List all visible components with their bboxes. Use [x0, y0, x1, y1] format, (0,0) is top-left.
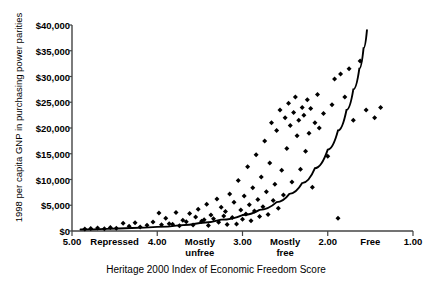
plot-area [0, 0, 432, 286]
data-point [231, 200, 236, 205]
data-point [221, 214, 226, 219]
data-point [214, 197, 219, 202]
data-point [267, 161, 272, 166]
data-point [206, 223, 211, 228]
data-point [364, 107, 369, 112]
data-point [242, 193, 247, 198]
data-point [247, 202, 252, 207]
data-point [133, 220, 138, 225]
data-point [291, 110, 296, 115]
data-point [332, 77, 337, 82]
data-point [204, 202, 209, 207]
data-point [330, 102, 335, 107]
data-point [269, 120, 274, 125]
data-point [301, 113, 306, 118]
data-point [338, 71, 343, 76]
data-point [306, 131, 311, 136]
data-point [310, 185, 315, 190]
data-point [335, 216, 340, 221]
data-point [121, 221, 126, 226]
data-point [254, 152, 259, 157]
data-point [150, 219, 155, 224]
data-point [317, 126, 322, 131]
data-point [286, 101, 291, 106]
data-point [305, 97, 310, 102]
data-point [227, 191, 232, 196]
data-point [300, 105, 305, 110]
data-point [240, 217, 245, 222]
data-point [272, 182, 277, 187]
data-point [238, 207, 243, 212]
data-point [257, 214, 262, 219]
data-point [255, 197, 260, 202]
data-point [156, 210, 161, 215]
data-point [278, 107, 283, 112]
data-point [259, 174, 264, 179]
data-point [174, 210, 179, 215]
scatter-points [82, 59, 383, 232]
data-point [303, 149, 308, 154]
data-point [163, 216, 168, 221]
data-point [298, 167, 303, 172]
data-point [296, 118, 301, 123]
data-point [284, 146, 289, 151]
data-point [351, 118, 356, 123]
data-point [372, 115, 377, 120]
data-point [342, 95, 347, 100]
data-point [315, 92, 320, 97]
data-point [245, 164, 250, 169]
data-point [219, 205, 224, 210]
data-point [234, 222, 239, 227]
data-point [193, 215, 198, 220]
data-point [196, 207, 201, 212]
data-point [295, 133, 300, 138]
data-point [321, 111, 326, 116]
data-point [223, 209, 228, 214]
data-point [262, 138, 267, 143]
data-point [293, 95, 298, 100]
data-point [264, 189, 269, 194]
data-point [236, 178, 241, 183]
data-point [187, 211, 192, 216]
data-point [266, 212, 271, 217]
data-point [378, 105, 383, 110]
data-point [274, 128, 279, 133]
data-point [312, 120, 317, 125]
data-point [225, 222, 230, 227]
data-point [177, 223, 182, 228]
data-point [289, 180, 294, 185]
data-point [276, 206, 281, 211]
data-point [279, 168, 284, 173]
data-point [283, 115, 288, 120]
data-point [281, 192, 286, 197]
chart-container: 1998 per capita GNP in purchasing power … [0, 0, 432, 286]
data-point [288, 123, 293, 128]
data-point [250, 185, 255, 190]
data-point [114, 226, 119, 231]
data-point [249, 218, 254, 223]
data-point [208, 213, 213, 218]
data-point [347, 66, 352, 71]
data-point [308, 106, 313, 111]
